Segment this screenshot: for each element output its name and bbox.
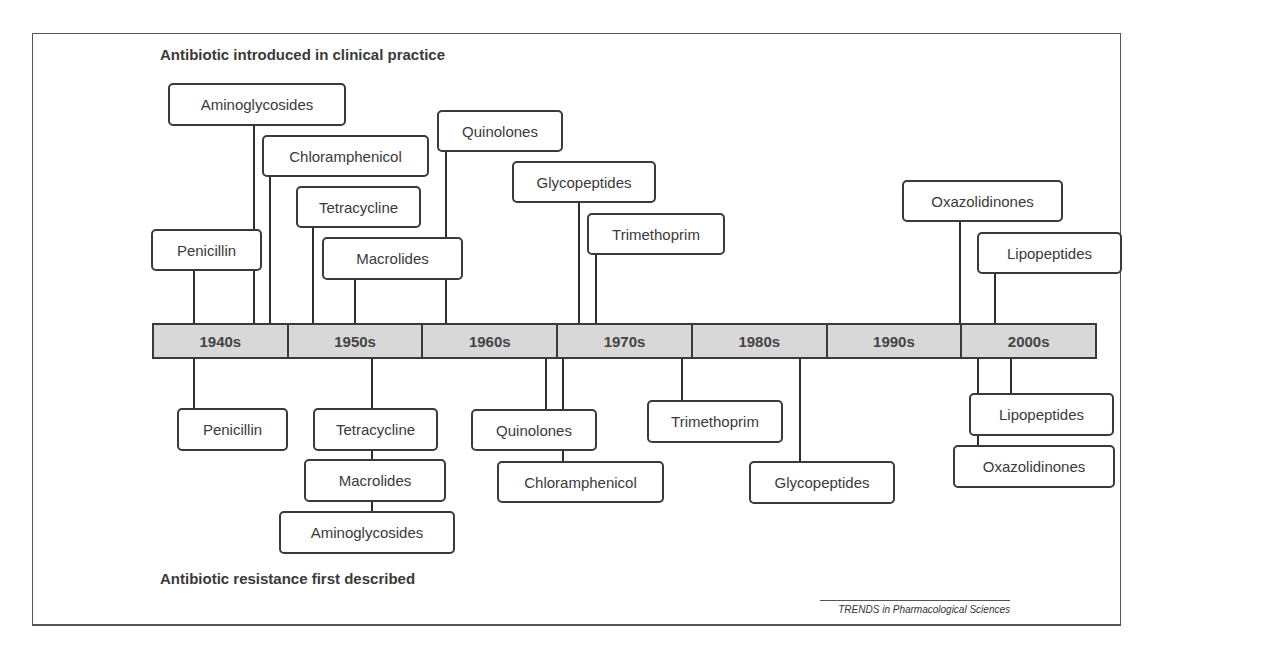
resistance-box-tetracycline: Tetracycline — [313, 408, 438, 451]
resistance-box-aminoglycosides: Aminoglycosides — [279, 511, 455, 554]
resistance-box-trimethoprim: Trimethoprim — [647, 400, 783, 443]
bottom-heading: Antibiotic resistance first described — [160, 570, 415, 587]
introduced-connector-chloramphenicol — [269, 177, 271, 323]
resistance-connector-glycopeptides — [799, 359, 801, 461]
introduced-connector-trimethoprim — [595, 255, 597, 323]
introduced-connector-aminoglycosides — [253, 126, 255, 323]
resistance-box-penicillin: Penicillin — [177, 408, 288, 451]
introduced-connector-oxazolidinones — [959, 222, 961, 323]
introduced-box-glycopeptides: Glycopeptides — [512, 161, 656, 203]
introduced-box-macrolides: Macrolides — [322, 237, 463, 280]
source-caption: TRENDS in Pharmacological Sciences — [820, 600, 1010, 615]
decade-1970s: 1970s — [558, 325, 693, 357]
resistance-connector-quinolones — [545, 359, 547, 409]
decade-1980s: 1980s — [693, 325, 828, 357]
top-heading: Antibiotic introduced in clinical practi… — [160, 46, 445, 63]
introduced-connector-macrolides — [354, 280, 356, 323]
introduced-box-quinolones: Quinolones — [437, 110, 563, 152]
introduced-box-oxazolidinones: Oxazolidinones — [902, 180, 1063, 222]
introduced-connector-lipopeptides — [994, 274, 996, 323]
decade-1990s: 1990s — [828, 325, 963, 357]
decade-2000s: 2000s — [962, 325, 1095, 357]
resistance-box-chloramphenicol: Chloramphenicol — [497, 461, 664, 503]
introduced-box-trimethoprim: Trimethoprim — [587, 213, 725, 255]
resistance-box-oxazolidinones: Oxazolidinones — [953, 445, 1115, 488]
decade-1960s: 1960s — [423, 325, 558, 357]
introduced-box-aminoglycosides: Aminoglycosides — [168, 83, 346, 126]
introduced-box-tetracycline: Tetracycline — [296, 186, 421, 228]
decade-1940s: 1940s — [154, 325, 289, 357]
resistance-box-quinolones: Quinolones — [471, 409, 597, 451]
resistance-connector-lipopeptides — [1010, 359, 1012, 393]
decade-timeline: 1940s 1950s 1960s 1970s 1980s 1990s 2000… — [152, 323, 1097, 359]
resistance-box-glycopeptides: Glycopeptides — [749, 461, 895, 504]
introduced-box-lipopeptides: Lipopeptides — [977, 232, 1122, 274]
decade-1950s: 1950s — [289, 325, 424, 357]
resistance-box-macrolides: Macrolides — [304, 459, 446, 502]
resistance-box-lipopeptides: Lipopeptides — [969, 393, 1114, 436]
resistance-connector-penicillin — [193, 359, 195, 408]
introduced-connector-tetracycline — [312, 228, 314, 323]
introduced-box-penicillin: Penicillin — [151, 229, 262, 271]
introduced-connector-glycopeptides — [578, 203, 580, 323]
resistance-connector-trimethoprim — [681, 359, 683, 400]
introduced-connector-penicillin — [193, 271, 195, 323]
introduced-box-chloramphenicol: Chloramphenicol — [262, 135, 429, 177]
